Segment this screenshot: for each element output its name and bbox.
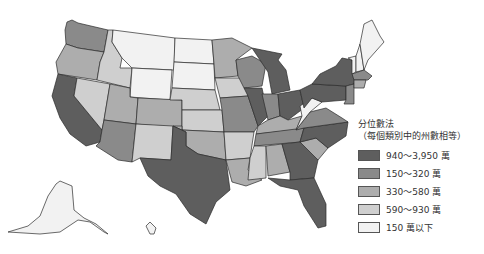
state-HI[interactable] [146, 222, 156, 234]
state-ND[interactable] [174, 38, 214, 64]
legend-item: 940～3,950 萬 [358, 146, 484, 164]
state-AK[interactable] [8, 181, 108, 234]
legend-label: 940～3,950 萬 [386, 149, 450, 162]
state-SD[interactable] [172, 62, 215, 90]
state-OH[interactable] [278, 90, 304, 120]
legend-swatch [358, 186, 380, 197]
state-AR[interactable] [224, 132, 254, 160]
legend-swatch [358, 150, 380, 161]
legend-label: 590～930 萬 [386, 203, 441, 216]
map-legend: 分位數法 （每個類別中的州數相等） 940～3,950 萬 150～320 萬 … [358, 118, 484, 236]
legend-subtitle: （每個類別中的州數相等） [358, 130, 484, 142]
state-KS[interactable] [182, 110, 224, 132]
state-FL[interactable] [268, 178, 326, 228]
legend-item: 330～580 萬 [358, 182, 484, 200]
legend-swatch [358, 222, 380, 233]
legend-swatch [358, 204, 380, 215]
legend-label: 150 萬以下 [386, 221, 433, 234]
state-WY[interactable] [130, 68, 172, 100]
legend-title: 分位數法 [358, 118, 484, 130]
legend-item: 150 萬以下 [358, 218, 484, 236]
legend-item: 590～930 萬 [358, 200, 484, 218]
state-CO[interactable] [136, 98, 182, 128]
state-MT[interactable] [112, 30, 175, 70]
legend-label: 330～580 萬 [386, 185, 441, 198]
legend-label: 150～320 萬 [386, 167, 441, 180]
legend-swatch [358, 168, 380, 179]
state-NM[interactable] [132, 124, 173, 162]
state-NY[interactable] [312, 58, 354, 86]
state-ME[interactable] [360, 20, 384, 70]
legend-item: 150～320 萬 [358, 164, 484, 182]
state-CT[interactable] [354, 80, 366, 88]
state-PA[interactable] [300, 84, 346, 108]
